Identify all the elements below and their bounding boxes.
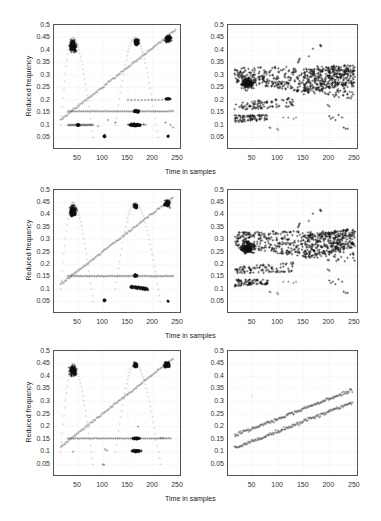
plot-area — [53, 189, 181, 313]
x-tick-label: 150 — [293, 154, 313, 161]
y-tick-label: 0.45 — [202, 359, 224, 366]
plot-area — [227, 350, 358, 476]
data-markers — [234, 209, 356, 296]
y-tick-label: 0.05 — [28, 297, 50, 304]
x-tick-label: 200 — [318, 154, 338, 161]
y-tick-label: 0.1 — [202, 121, 224, 128]
y-tick-label: 0.35 — [202, 384, 224, 391]
x-tick-label: 100 — [267, 318, 287, 325]
x-tick-label: 250 — [167, 154, 187, 161]
y-tick-label: 0.3 — [202, 71, 224, 78]
x-tick-label: 250 — [167, 481, 187, 488]
x-tick-label: 50 — [67, 318, 87, 325]
x-tick-label: 200 — [142, 481, 162, 488]
x-tick-label: 100 — [92, 318, 112, 325]
x-tick-label: 50 — [242, 481, 262, 488]
y-tick-label: 0.2 — [202, 422, 224, 429]
y-tick-label: 0.1 — [28, 121, 50, 128]
y-tick-label: 0.25 — [202, 248, 224, 255]
y-tick-label: 0.5 — [28, 21, 50, 28]
x-tick-label: 150 — [117, 481, 137, 488]
data-markers — [59, 196, 174, 303]
y-tick-label: 0.45 — [202, 198, 224, 205]
x-axis-label: Time in samples — [165, 495, 216, 502]
data-markers — [233, 44, 356, 132]
x-tick-label: 100 — [92, 154, 112, 161]
y-tick-label: 0.1 — [28, 285, 50, 292]
y-tick-label: 0.25 — [202, 83, 224, 90]
x-tick-label: 150 — [293, 481, 313, 488]
x-tick-label: 200 — [142, 154, 162, 161]
x-tick-label: 250 — [344, 481, 364, 488]
y-tick-label: 0.05 — [202, 297, 224, 304]
data-markers — [59, 358, 174, 467]
y-tick-label: 0.4 — [28, 46, 50, 53]
data-markers — [59, 28, 177, 139]
plot-area — [227, 24, 358, 149]
y-tick-label: 0.45 — [28, 359, 50, 366]
scatter-plot-svg — [54, 25, 182, 150]
y-tick-label: 0.45 — [28, 198, 50, 205]
x-tick-label: 250 — [344, 154, 364, 161]
plot-area — [227, 189, 358, 313]
data-markers — [233, 388, 353, 449]
x-tick-label: 100 — [267, 154, 287, 161]
y-tick-label: 0.4 — [202, 46, 224, 53]
y-axis-label: Reduced frequency — [25, 383, 32, 443]
y-tick-label: 0.15 — [202, 272, 224, 279]
x-tick-label: 150 — [117, 154, 137, 161]
plot-area — [53, 350, 181, 476]
x-tick-label: 200 — [318, 481, 338, 488]
y-tick-label: 0.4 — [202, 210, 224, 217]
y-tick-label: 0.05 — [28, 460, 50, 467]
x-tick-label: 250 — [344, 318, 364, 325]
y-tick-label: 0.4 — [202, 372, 224, 379]
scatter-plot-svg — [228, 351, 359, 477]
x-tick-label: 100 — [92, 481, 112, 488]
y-tick-label: 0.5 — [28, 347, 50, 354]
plot-area — [53, 24, 181, 149]
y-tick-label: 0.4 — [28, 210, 50, 217]
x-tick-label: 50 — [67, 481, 87, 488]
y-tick-label: 0.35 — [202, 223, 224, 230]
y-tick-label: 0.2 — [202, 260, 224, 267]
x-tick-label: 50 — [67, 154, 87, 161]
x-tick-label: 100 — [267, 481, 287, 488]
x-tick-label: 250 — [167, 318, 187, 325]
scatter-plot-svg — [228, 25, 359, 150]
y-tick-label: 0.05 — [202, 133, 224, 140]
y-tick-label: 0.2 — [202, 96, 224, 103]
y-axis-label: Reduced frequency — [25, 221, 32, 281]
scatter-plot-svg — [54, 351, 182, 477]
y-tick-label: 0.35 — [202, 58, 224, 65]
y-tick-label: 0.3 — [202, 235, 224, 242]
y-tick-label: 0.5 — [202, 347, 224, 354]
y-tick-label: 0.5 — [202, 21, 224, 28]
y-tick-label: 0.4 — [28, 372, 50, 379]
x-axis-label: Time in samples — [165, 168, 216, 175]
x-tick-label: 200 — [318, 318, 338, 325]
scatter-plot-svg — [54, 190, 182, 314]
x-tick-label: 50 — [242, 154, 262, 161]
y-axis-label: Reduced frequency — [25, 56, 32, 116]
x-tick-label: 150 — [293, 318, 313, 325]
y-tick-label: 0.05 — [28, 133, 50, 140]
y-tick-label: 0.25 — [202, 410, 224, 417]
y-tick-label: 0.1 — [28, 447, 50, 454]
y-tick-label: 0.15 — [202, 108, 224, 115]
y-tick-label: 0.45 — [202, 33, 224, 40]
x-tick-label: 200 — [142, 318, 162, 325]
scatter-plot-svg — [228, 190, 359, 314]
x-tick-label: 150 — [117, 318, 137, 325]
y-tick-label: 0.05 — [202, 460, 224, 467]
x-axis-label: Time in samples — [165, 332, 216, 339]
x-tick-label: 50 — [242, 318, 262, 325]
y-tick-label: 0.3 — [202, 397, 224, 404]
y-tick-label: 0.15 — [202, 435, 224, 442]
y-tick-label: 0.1 — [202, 447, 224, 454]
y-tick-label: 0.45 — [28, 33, 50, 40]
y-tick-label: 0.5 — [202, 186, 224, 193]
y-tick-label: 0.5 — [28, 186, 50, 193]
y-tick-label: 0.1 — [202, 285, 224, 292]
